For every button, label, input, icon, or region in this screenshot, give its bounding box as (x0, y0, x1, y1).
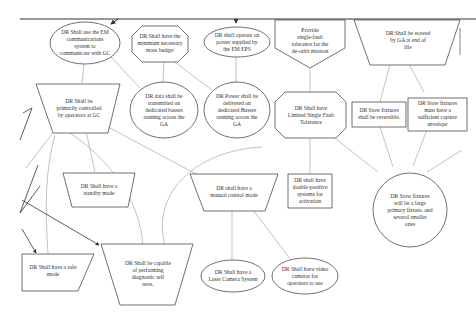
edge-dark (22, 229, 36, 253)
edge (110, 56, 140, 88)
node-em-comm-label: DR Shall use the EM communications syste… (52, 26, 118, 60)
node-operators-gc-label: DR Shall be primarily controlled by oper… (46, 96, 112, 120)
node-stow-reversible-label: DR Stow fixtures shall be reversible. (352, 104, 406, 124)
node-power-buses-label: DR Power shall be delivered on dedicated… (205, 90, 269, 130)
edge-dark (20, 165, 40, 213)
node-safe-mode-label: DR Shall have a safe mode (20, 262, 86, 280)
node-diagnostic-label: DR Shall be capable of performing diagno… (112, 258, 184, 290)
node-mass-budget-label: DR Shall have the minimum necessary mass… (132, 28, 188, 58)
bus-arrow-em-comm (111, 19, 118, 24)
node-standby-label: DR Shall have a standby mode (68, 180, 130, 200)
node-stow-primary-label: DR Stow fixtures will be a large primary… (376, 190, 444, 230)
node-single-fault-label: Provide single-fault tolerance for the d… (278, 24, 342, 58)
edge (380, 64, 390, 102)
edge (413, 127, 428, 166)
edge (250, 206, 291, 260)
node-laser-camera-label: DR Shall have a Laser Camera System (201, 268, 265, 284)
edge (380, 127, 393, 167)
edge (46, 135, 55, 254)
edge (26, 130, 55, 168)
node-em-eps-label: DR shall operate on power supplied by th… (205, 30, 269, 54)
node-stow-envelope-label: DR Stow fixtures must have a sufficient … (408, 99, 467, 129)
node-video-cameras-label: DR Shall have video cameras for operator… (272, 264, 338, 288)
node-data-buses-label: DR data shall be transmitted on dedicate… (132, 90, 196, 130)
edge (427, 150, 462, 172)
node-manual-label: DR shall have a manual control mode (196, 182, 272, 202)
edge (82, 64, 84, 83)
edge-dark (20, 108, 32, 140)
node-double-positive-label: DR shall have double-positive systems fo… (288, 176, 332, 206)
node-limited-sft-label: DR Shall have Limited Single Fault Toler… (276, 103, 346, 127)
edge (409, 64, 424, 92)
edge (163, 60, 164, 82)
node-stowed-label: DR Shall be stowed by GA at end of life (370, 26, 446, 54)
